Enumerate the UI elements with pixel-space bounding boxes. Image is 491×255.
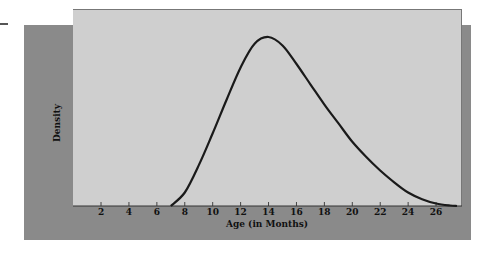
x-tick-label: 8	[182, 207, 188, 217]
x-tick-label: 20	[346, 207, 359, 217]
x-tick-label: 4	[126, 207, 132, 217]
x-tick-label: 14	[262, 207, 275, 217]
x-tick-label: 10	[206, 207, 219, 217]
x-axis-ticks	[101, 202, 436, 206]
x-tick-label: 16	[290, 207, 303, 217]
x-tick-label: 26	[430, 207, 443, 217]
x-axis-label: Age (in Months)	[226, 219, 308, 229]
x-tick-label: 6	[154, 207, 160, 217]
x-tick-label: 18	[318, 207, 331, 217]
density-curve	[171, 37, 457, 206]
x-tick-label: 24	[402, 207, 415, 217]
x-tick-label: 12	[234, 207, 247, 217]
x-tick-label: 22	[374, 207, 387, 217]
y-axis-label: Density	[52, 104, 62, 142]
x-tick-label: 2	[98, 207, 104, 217]
